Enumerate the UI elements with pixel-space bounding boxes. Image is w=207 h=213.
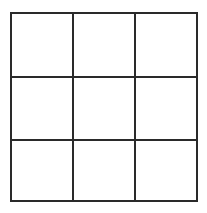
cell-2-0[interactable]: [12, 141, 74, 200]
tic-tac-toe-board: [10, 12, 198, 202]
cell-1-0[interactable]: [12, 78, 74, 141]
cell-0-2[interactable]: [136, 14, 196, 78]
cell-0-0[interactable]: [12, 14, 74, 78]
cell-2-1[interactable]: [74, 141, 136, 200]
cell-0-1[interactable]: [74, 14, 136, 78]
cell-1-1[interactable]: [74, 78, 136, 141]
cell-1-2[interactable]: [136, 78, 196, 141]
cell-2-2[interactable]: [136, 141, 196, 200]
